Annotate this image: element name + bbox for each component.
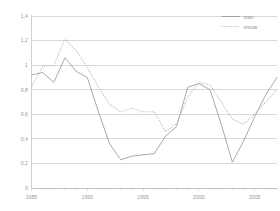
chart-plot-area: 00,20,40,60,811,21,4 1985199019952000200…: [0, 0, 280, 211]
x-tick-label: 2000: [193, 194, 205, 200]
x-tick-label: 1985: [26, 194, 38, 200]
series-line-vrouw: [32, 39, 278, 131]
y-tick-label: 0,2: [21, 160, 28, 166]
x-tick-label: 1990: [82, 194, 94, 200]
x-tick-label: 1995: [137, 194, 149, 200]
y-tick-label: 0: [25, 185, 28, 191]
x-tick-label: 2005: [249, 194, 261, 200]
y-tick-label: 0,6: [21, 111, 28, 117]
legend-label-man: man: [244, 14, 254, 20]
y-tick-label: 0,4: [21, 136, 28, 142]
gridlines-group: [32, 16, 278, 188]
y-tick-label: 1,4: [21, 13, 28, 19]
y-tick-label: 1: [25, 62, 28, 68]
x-axis-tick-labels: 19851990199520002005: [26, 194, 261, 200]
y-tick-label: 1,2: [21, 37, 28, 43]
y-axis-tick-labels: 00,20,40,60,811,21,4: [21, 13, 28, 191]
legend-label-vrouw: vrouw: [244, 24, 258, 30]
line-chart: 00,20,40,60,811,21,4 1985199019952000200…: [0, 0, 280, 211]
x-axis-tick-marks: [32, 188, 278, 191]
y-tick-label: 0,8: [21, 87, 28, 93]
series-line-man: [32, 58, 278, 162]
